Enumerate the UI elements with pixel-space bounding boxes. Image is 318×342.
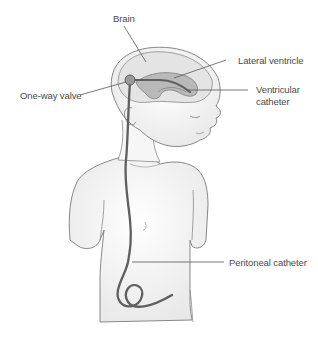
label-ventricular-catheter-line2: catheter	[256, 96, 290, 107]
label-peritoneal-catheter: Peritoneal catheter	[229, 257, 307, 268]
label-ventricular-catheter-line1: Ventricular	[256, 84, 300, 95]
body-outline	[69, 156, 208, 322]
diagram-illustration	[0, 0, 318, 342]
label-brain: Brain	[113, 13, 135, 24]
label-lateral-ventricle: Lateral ventricle	[238, 55, 303, 66]
valve-bulb	[125, 75, 135, 85]
label-one-way-valve: One-way valve	[20, 90, 82, 101]
shunt-diagram: Brain Lateral ventricle One-way valve Ve…	[0, 0, 318, 342]
